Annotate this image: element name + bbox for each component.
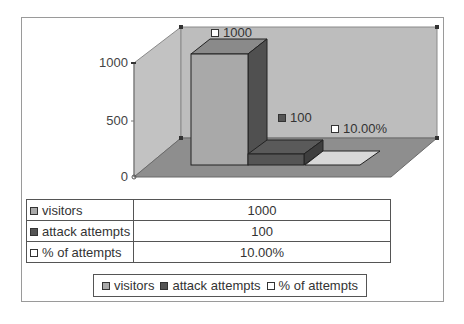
- visitors-swatch-icon: [30, 207, 38, 215]
- legend-item-attack-attempts: attack attempts: [160, 278, 260, 293]
- y-tick-0: 0: [88, 169, 128, 184]
- label-swatch-icon: [278, 114, 286, 122]
- table-row: % of attempts 10.00%: [27, 242, 391, 263]
- legend-item-visitors: visitors: [102, 278, 154, 293]
- legend-item-percent: % of attempts: [267, 278, 358, 293]
- label-swatch-icon: [331, 125, 339, 133]
- data-label-visitors: 1000: [211, 25, 252, 40]
- percent-swatch-icon: [30, 249, 38, 257]
- data-label-attack: 100: [278, 110, 312, 125]
- chart-legend: visitors attack attempts % of attempts: [93, 274, 367, 297]
- y-tick-500: 500: [88, 113, 128, 128]
- percent-swatch-icon: [267, 282, 275, 290]
- attack-swatch-icon: [30, 228, 38, 236]
- bar-visitors: [191, 39, 267, 165]
- table-row: visitors 1000: [27, 200, 391, 221]
- data-label-percent: 10.00%: [331, 121, 387, 136]
- label-swatch-icon: [211, 29, 219, 37]
- data-table: visitors 1000 attack attempts 100 % of a…: [26, 199, 391, 263]
- visitors-swatch-icon: [102, 282, 110, 290]
- attack-swatch-icon: [160, 282, 168, 290]
- table-row: attack attempts 100: [27, 221, 391, 242]
- y-tick-1000: 1000: [88, 55, 128, 70]
